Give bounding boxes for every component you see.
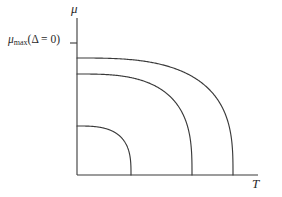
mu-max-annotation-label: μmax(Δ = 0) — [8, 34, 60, 47]
mu-max-subscript: max — [14, 38, 28, 47]
phase-diagram-figure: μ T μmax(Δ = 0) — [0, 0, 282, 197]
y-axis-label: μ — [71, 2, 78, 15]
curve-middle-phase-boundary — [77, 74, 192, 175]
plot-area — [0, 0, 282, 197]
curve-inner-phase-boundary — [77, 126, 131, 175]
x-axis-label: T — [252, 177, 259, 190]
curve-outer-phase-boundary — [77, 58, 233, 175]
mu-max-argument: (Δ = 0) — [28, 33, 60, 45]
